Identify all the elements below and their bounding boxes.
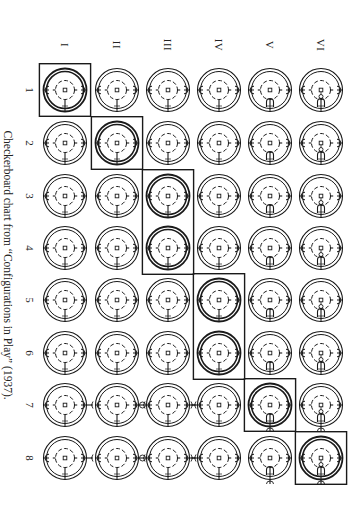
cell-symbol: [147, 122, 190, 165]
cell-symbol: [300, 437, 343, 485]
cell-symbol: [249, 175, 292, 218]
cell-symbol: [147, 227, 190, 270]
cell-symbol: [249, 227, 292, 270]
cell-symbol: [96, 384, 146, 427]
cell-symbol: [44, 384, 94, 427]
cell-symbol: [96, 175, 139, 218]
cell-symbol: [249, 384, 292, 432]
cell-symbol: [44, 69, 87, 112]
cell-symbol: [300, 227, 343, 270]
cell-symbol: [249, 69, 292, 112]
cell-symbol: [249, 279, 292, 322]
cell-symbol: [44, 122, 87, 165]
cell-symbol: [198, 332, 241, 375]
cell-symbol: [198, 279, 241, 322]
cell-symbol: [44, 227, 87, 270]
cell-symbol: [300, 384, 343, 432]
cell-symbol: [198, 175, 241, 218]
cell-symbol: [249, 332, 292, 375]
cell-symbol: [96, 122, 139, 165]
cell-symbol: [300, 175, 343, 218]
cell-symbol: [44, 279, 87, 322]
cell-symbol: [147, 175, 190, 218]
cell-symbol: [96, 279, 139, 322]
cell-symbol: [96, 69, 139, 112]
highlight-boxes: [39, 64, 346, 485]
cell-symbol: [44, 332, 87, 375]
cell-symbol: [198, 227, 241, 270]
cell-symbol: [191, 384, 241, 427]
cell-symbol: [300, 279, 343, 322]
cell-symbol: [147, 437, 197, 480]
cell-symbol: [147, 279, 190, 322]
cell-symbol: [96, 332, 139, 375]
cell-symbol: [300, 332, 343, 375]
cell-symbol: [198, 122, 241, 165]
cell-symbol: [147, 384, 197, 427]
cell-symbol: [249, 122, 292, 165]
cell-symbol: [300, 69, 343, 112]
checkerboard-grid: [0, 0, 364, 520]
cell-symbol: [191, 437, 241, 480]
cell-symbol: [198, 69, 241, 112]
cell-symbol: [300, 122, 343, 165]
cell-symbol: [44, 175, 87, 218]
cell-symbol: [147, 69, 190, 112]
cell-symbol: [96, 227, 139, 270]
cell-symbol: [96, 437, 146, 480]
cell-symbol: [44, 437, 94, 480]
cell-symbol: [249, 437, 292, 485]
cell-symbol: [147, 332, 190, 375]
